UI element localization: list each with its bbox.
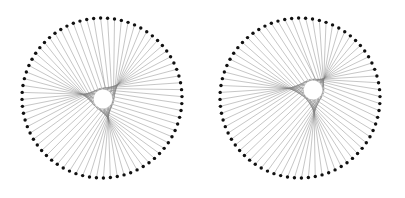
node-dot [30, 58, 33, 61]
node-dot [25, 70, 28, 73]
node-dot [290, 17, 293, 20]
node-dot [279, 174, 282, 177]
node-dot [371, 129, 374, 132]
node-dot [246, 36, 249, 39]
node-dot [218, 98, 221, 101]
node-dot [176, 122, 179, 125]
node-dot [53, 32, 56, 35]
node-dot [263, 24, 266, 27]
node-dot [180, 102, 183, 105]
node-dot [219, 84, 222, 87]
node-dot [251, 32, 254, 35]
node-dot [314, 175, 317, 178]
node-dot [320, 173, 323, 176]
node-dot [351, 157, 354, 160]
node-dot [345, 161, 348, 164]
spirograph-figure-svg [0, 0, 405, 198]
node-dot [126, 21, 129, 24]
node-dot [367, 55, 370, 58]
node-dot [180, 88, 183, 91]
node-dot [343, 30, 346, 33]
node-dot [122, 173, 125, 176]
node-dot [180, 95, 183, 98]
node-dot [139, 26, 142, 29]
node-dot [333, 168, 336, 171]
node-dot [359, 44, 362, 47]
node-dot [153, 157, 156, 160]
node-dot [120, 19, 123, 22]
node-dot [254, 163, 257, 166]
inner-core-void [94, 90, 113, 109]
figure-canvas [0, 0, 405, 198]
node-dot [270, 22, 273, 25]
node-dot [378, 88, 381, 91]
node-dot [327, 171, 330, 174]
node-dot [300, 176, 303, 179]
node-dot [81, 174, 84, 177]
node-dot [297, 16, 300, 19]
node-dot [170, 135, 173, 138]
node-dot [21, 84, 24, 87]
node-dot [375, 74, 378, 77]
node-dot [169, 55, 172, 58]
node-dot [72, 22, 75, 25]
node-dot [167, 141, 170, 144]
node-dot [175, 68, 178, 71]
node-dot [78, 19, 81, 22]
node-dot [373, 68, 376, 71]
node-dot [38, 46, 41, 49]
node-dot [311, 17, 314, 20]
node-dot [142, 165, 145, 168]
node-dot [27, 64, 30, 67]
node-dot [224, 125, 227, 128]
node-dot [356, 152, 359, 155]
node-dot [20, 91, 23, 94]
node-dot [363, 49, 366, 52]
node-dot [260, 166, 263, 169]
node-dot [32, 138, 35, 141]
node-dot [243, 154, 246, 157]
node-dot [286, 175, 289, 178]
node-dot [102, 176, 105, 179]
node-dot [220, 112, 223, 115]
node-dot [232, 52, 235, 55]
node-dot [135, 168, 138, 171]
inner-core-void [304, 81, 323, 100]
node-dot [236, 46, 239, 49]
node-dot [370, 61, 373, 64]
node-dot [21, 105, 24, 108]
node-dot [95, 176, 98, 179]
node-dot [45, 154, 48, 157]
node-dot [99, 16, 102, 19]
node-dot [324, 21, 327, 24]
node-dot [223, 70, 226, 73]
node-dot [179, 81, 182, 84]
node-dot [68, 169, 71, 172]
node-dot [62, 166, 65, 169]
node-dot [22, 112, 25, 115]
node-dot [283, 18, 286, 21]
node-dot [365, 141, 368, 144]
node-dot [158, 152, 161, 155]
node-dot [307, 176, 310, 179]
node-dot [276, 19, 279, 22]
node-dot [337, 26, 340, 29]
node-dot [340, 165, 343, 168]
node-dot [248, 158, 251, 161]
node-dot [147, 161, 150, 164]
node-dot [225, 64, 228, 67]
node-dot [34, 52, 37, 55]
node-dot [354, 39, 357, 42]
node-dot [221, 77, 224, 80]
node-dot [374, 122, 377, 125]
node-dot [272, 172, 275, 175]
node-dot [177, 74, 180, 77]
node-dot [378, 95, 381, 98]
node-dot [129, 171, 132, 174]
node-dot [165, 49, 168, 52]
node-dot [40, 149, 43, 152]
node-dot [318, 19, 321, 22]
node-dot [257, 28, 260, 31]
node-dot [162, 147, 165, 150]
node-dot [56, 163, 59, 166]
